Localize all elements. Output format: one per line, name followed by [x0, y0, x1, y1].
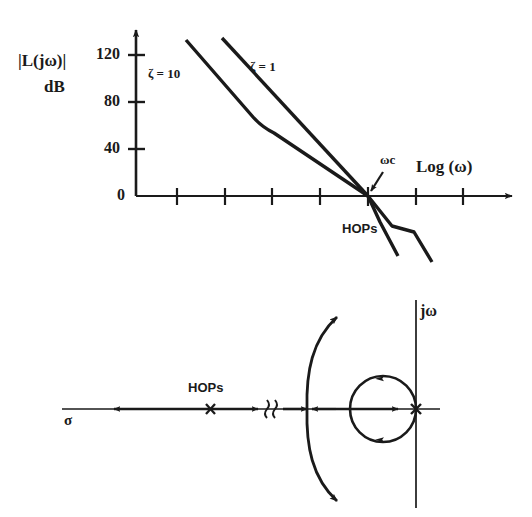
bode-curve-zeta10-hops [368, 196, 432, 262]
rl-real-axis-label: σ [64, 413, 72, 428]
rl-complex-branch-lower [307, 409, 337, 501]
bode-y-axis-label-line1: |L(jω)| [18, 52, 66, 69]
diagram-svg [0, 0, 532, 517]
rl-imag-axis-label: jω [420, 303, 437, 319]
omega-c-arrow [371, 172, 383, 191]
bode-y-tick-label-120: 120 [96, 46, 120, 62]
bode-crossover-label: ωc [380, 153, 395, 166]
bode-curve-label-zeta1: ζ = 1 [250, 60, 276, 73]
rl-hops-label: HOPs [188, 381, 223, 394]
bode-x-axis-label: Log (ω) [416, 158, 472, 175]
bode-y-axis-label-line2: dB [44, 78, 65, 95]
bode-curve-zeta10 [186, 40, 368, 196]
root-locus-plot [62, 300, 440, 508]
bode-y-tick-label-40: 40 [104, 140, 120, 156]
bode-curve-zeta1 [222, 38, 368, 196]
bode-y-tick-label-80: 80 [104, 93, 120, 109]
bode-curve-label-zeta10: ζ = 10 [148, 67, 180, 80]
rl-complex-branch-upper [307, 317, 337, 409]
figure-canvas: |L(jω)| dB 120 80 40 0 Log (ω) ζ = 10 ζ … [0, 0, 532, 517]
bode-hops-label: HOPs [342, 222, 377, 235]
bode-y-tick-label-0: 0 [117, 187, 125, 203]
bode-plot [128, 30, 512, 262]
